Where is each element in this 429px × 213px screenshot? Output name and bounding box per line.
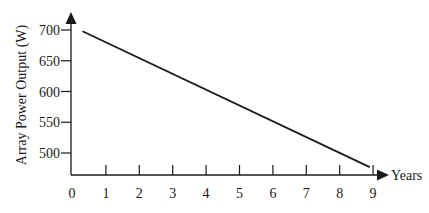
x-axis-label: Years <box>391 168 422 183</box>
x-tick-label: 4 <box>203 186 210 201</box>
x-tick-label: 0 <box>69 186 76 201</box>
y-tick-label: 500 <box>39 146 60 161</box>
y-tick-label: 700 <box>39 23 60 38</box>
line-chart: 500550600650700 0123456789 Years Array P… <box>0 0 429 213</box>
x-tick-label: 6 <box>269 186 276 201</box>
x-tick-label: 7 <box>303 186 310 201</box>
x-tick-label: 5 <box>236 186 243 201</box>
y-tick-label: 600 <box>39 85 60 100</box>
x-axis-arrow-icon <box>377 170 389 181</box>
power-output-line <box>83 31 370 167</box>
y-tick-label: 650 <box>39 54 60 69</box>
y-axis-arrow-icon <box>66 12 77 24</box>
x-tick-label: 1 <box>102 186 109 201</box>
y-axis-label: Array Power Output (W) <box>14 24 30 165</box>
x-tick-label: 8 <box>336 186 343 201</box>
x-tick-label: 3 <box>169 186 176 201</box>
y-axis-ticks: 500550600650700 <box>39 23 71 161</box>
x-axis-ticks: 0123456789 <box>69 165 377 201</box>
y-tick-label: 550 <box>39 115 60 130</box>
x-tick-label: 9 <box>370 186 377 201</box>
x-tick-label: 2 <box>136 186 143 201</box>
